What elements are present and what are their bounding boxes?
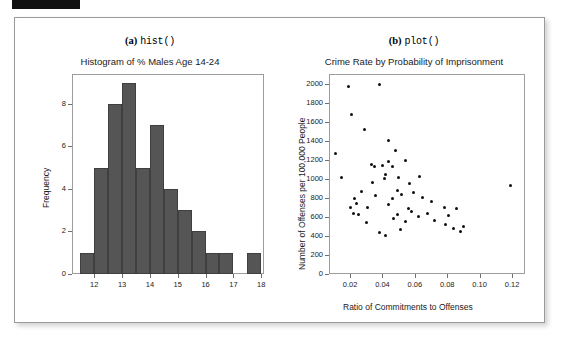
scatter-x-tick: [382, 274, 383, 278]
scatter-x-tick: [447, 274, 448, 278]
scatter-point: [383, 177, 386, 180]
histogram-x-tick: [178, 274, 179, 278]
scatter-y-tick-label: 0: [301, 269, 323, 278]
scatter-point: [349, 206, 352, 209]
scatter-x-tick-label: 0.08: [433, 280, 461, 289]
histogram-bar: [80, 253, 94, 274]
figure-panel: (a) hist() Histogram of % Males Age 14-2…: [14, 17, 545, 323]
scatter-point: [404, 220, 407, 223]
scatter-point: [399, 228, 402, 231]
histogram-y-tick: [68, 104, 72, 105]
histogram-x-tick: [122, 274, 123, 278]
scatter-point: [391, 197, 394, 200]
histogram-bar: [136, 168, 150, 274]
scatter-point: [509, 184, 512, 187]
scatter-point: [443, 206, 446, 209]
histogram-y-tick: [68, 231, 72, 232]
scatter-point: [378, 83, 381, 86]
scatter-y-tick-label: 1800: [301, 98, 323, 107]
histogram-x-tick-label: 15: [169, 280, 187, 289]
subfigure-a-caption-letter: (a): [125, 35, 137, 46]
scatter-point: [365, 221, 368, 224]
scatter-point: [433, 219, 436, 222]
scatter-point: [363, 128, 366, 131]
scatter-point: [426, 212, 429, 215]
histogram-y-axis-label: Frequency: [41, 168, 51, 208]
histogram-x-tick: [233, 274, 234, 278]
scatter-y-tick: [325, 103, 329, 104]
scatter-title: Crime Rate by Probability of Imprisonmen…: [283, 56, 545, 67]
scatter-y-tick-label: 2000: [301, 79, 323, 88]
scatter-y-tick: [325, 122, 329, 123]
histogram-y-tick: [68, 189, 72, 190]
page-top-rule: [0, 0, 561, 9]
scatter-y-tick: [325, 84, 329, 85]
scatter-point: [407, 207, 410, 210]
histogram-x-tick: [150, 274, 151, 278]
subfigure-b-caption-function: plot(): [404, 36, 439, 47]
histogram-x-tick-label: 16: [197, 280, 215, 289]
scatter-point: [384, 173, 387, 176]
histogram-bar: [178, 210, 192, 274]
scatter-y-tick: [325, 236, 329, 237]
scatter-point: [347, 85, 350, 88]
histogram-x-tick: [94, 274, 95, 278]
page-top-black-band: [12, 0, 80, 9]
histogram-x-tick: [206, 274, 207, 278]
histogram-y-tick-label: 4: [52, 184, 66, 193]
scatter-y-tick: [325, 217, 329, 218]
scatter-plot-area: [329, 74, 525, 274]
scatter-y-tick: [325, 198, 329, 199]
scatter-x-tick: [512, 274, 513, 278]
histogram-x-tick-label: 13: [113, 280, 131, 289]
scatter-point: [410, 210, 413, 213]
histogram-bar: [164, 189, 178, 274]
scatter-x-tick: [350, 274, 351, 278]
scatter-point: [394, 149, 397, 152]
histogram-x-tick-label: 12: [85, 280, 103, 289]
histogram-y-tick-label: 0: [52, 269, 66, 278]
scatter-point: [430, 200, 433, 203]
subfigure-a-caption: (a) hist(): [15, 34, 285, 47]
histogram-bar: [94, 168, 108, 274]
histogram-title: Histogram of % Males Age 14-24: [15, 56, 285, 67]
histogram-bar: [108, 104, 122, 274]
histogram-bar: [192, 231, 206, 274]
histogram-y-tick-label: 2: [52, 226, 66, 235]
scatter-point: [381, 164, 384, 167]
scatter-point: [352, 212, 355, 215]
subfigure-b-plot: (b) plot() Crime Rate by Probability of …: [283, 18, 545, 322]
scatter-point: [360, 190, 363, 193]
histogram-bar: [219, 253, 233, 274]
scatter-y-tick: [325, 274, 329, 275]
scatter-y-tick: [325, 160, 329, 161]
scatter-y-tick: [325, 179, 329, 180]
histogram-y-tick: [68, 274, 72, 275]
scatter-point: [391, 165, 394, 168]
histogram-bar: [150, 125, 164, 274]
histogram-bar: [122, 83, 136, 274]
histogram-bar: [247, 253, 261, 274]
scatter-x-tick-label: 0.02: [336, 280, 364, 289]
scatter-point: [462, 225, 465, 228]
histogram-y-tick-label: 8: [52, 99, 66, 108]
scatter-x-tick: [415, 274, 416, 278]
scatter-point: [334, 152, 337, 155]
histogram-x-tick-label: 14: [141, 280, 159, 289]
scatter-x-axis-label: Ratio of Commitments to Offenses: [343, 302, 473, 312]
scatter-x-tick-label: 0.10: [466, 280, 494, 289]
histogram-bar: [206, 253, 220, 274]
scatter-point: [373, 165, 376, 168]
scatter-point: [378, 231, 381, 234]
scatter-point: [412, 191, 415, 194]
subfigure-a-caption-function: hist(): [140, 36, 175, 47]
scatter-x-tick-label: 0.04: [368, 280, 396, 289]
scatter-point: [459, 230, 462, 233]
scatter-y-tick: [325, 255, 329, 256]
histogram-x-tick-label: 17: [224, 280, 242, 289]
histogram-x-tick-label: 18: [252, 280, 270, 289]
scatter-y-axis-label: Number of Offenses per 100,000 People: [297, 118, 307, 270]
subfigure-b-caption: (b) plot(): [283, 34, 545, 47]
scatter-point: [404, 159, 407, 162]
scatter-y-tick: [325, 141, 329, 142]
